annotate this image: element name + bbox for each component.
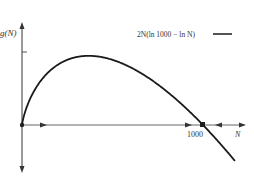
curve-g-of-n: [22, 56, 235, 161]
legend-label: 2N(ln 1000 − ln N): [137, 30, 195, 39]
flow-arrow-right-icon: [185, 123, 192, 128]
x-axis-end-arrow-icon: [239, 123, 246, 128]
y-axis-down-arrow-icon: [20, 166, 25, 173]
y-axis-up-arrow-icon: [20, 22, 25, 29]
flow-arrow-right-icon: [40, 123, 47, 128]
x-tick-label-1000: 1000: [187, 130, 203, 139]
flow-arrow-left-icon: [215, 123, 222, 128]
x-axis-label: N: [234, 130, 241, 139]
phase-plot: g(N) N 1000 2N(ln 1000 − ln N): [0, 0, 254, 180]
y-axis-label: g(N): [0, 28, 17, 38]
